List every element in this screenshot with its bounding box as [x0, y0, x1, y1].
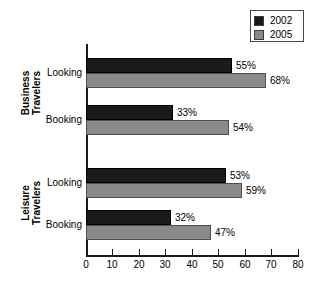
x-tick-label: 30: [155, 259, 175, 271]
x-tick-label: 20: [129, 259, 149, 271]
x-tick-label: 70: [261, 259, 281, 271]
x-tick-label: 0: [76, 259, 96, 271]
bar-2002-booking: [86, 210, 171, 225]
x-tick-label: 10: [102, 259, 122, 271]
bar-2005-booking: [86, 225, 211, 240]
x-tick-label: 40: [182, 259, 202, 271]
bar-value-label: 53%: [230, 168, 250, 183]
bar-2002-looking: [86, 168, 226, 183]
legend-swatch-2005: [254, 30, 264, 40]
bar-chart: 2002 2005 0 10 20 30 40 50 60 70 80 Busi…: [0, 0, 324, 293]
bar-value-label: 47%: [215, 225, 235, 240]
legend-label-2002: 2002: [270, 15, 292, 26]
category-label: Looking: [20, 177, 82, 189]
x-tick-mark: [86, 249, 87, 256]
category-label: Booking: [20, 114, 82, 126]
legend-label-2005: 2005: [270, 29, 292, 40]
x-tick-mark: [245, 249, 246, 256]
legend-item-2005: 2005: [254, 28, 300, 41]
x-tick-label: 50: [208, 259, 228, 271]
bar-2005-looking: [86, 183, 242, 198]
legend-swatch-2002: [254, 16, 264, 26]
x-tick-mark: [218, 249, 219, 256]
bar-value-label: 59%: [246, 183, 266, 198]
x-tick-mark: [112, 249, 113, 256]
x-tick-mark: [298, 249, 299, 256]
category-label: Booking: [20, 219, 82, 231]
bar-2005-booking: [86, 120, 229, 135]
bar-value-label: 33%: [177, 105, 197, 120]
x-tick-mark: [271, 249, 272, 256]
bar-value-label: 32%: [175, 210, 195, 225]
x-tick-label: 80: [288, 259, 308, 271]
chart-legend: 2002 2005: [250, 10, 304, 42]
bar-2002-looking: [86, 58, 232, 73]
bar-2005-looking: [86, 73, 266, 88]
category-label: Looking: [20, 67, 82, 79]
bar-2002-booking: [86, 105, 173, 120]
x-tick-mark: [165, 249, 166, 256]
x-tick-mark: [139, 249, 140, 256]
x-tick-mark: [192, 249, 193, 256]
x-tick-label: 60: [235, 259, 255, 271]
bar-value-label: 54%: [233, 120, 253, 135]
bar-value-label: 55%: [236, 58, 256, 73]
bar-value-label: 68%: [270, 73, 290, 88]
legend-item-2002: 2002: [254, 14, 300, 27]
